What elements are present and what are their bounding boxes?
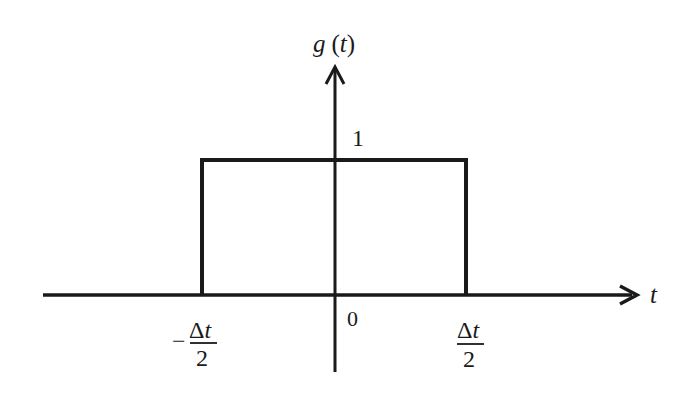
svg-text:2: 2	[196, 345, 208, 371]
height-label: 1	[352, 125, 364, 151]
svg-text:2: 2	[463, 346, 475, 372]
pulse-diagram: g(t) 1 0 t − Δt 2 Δt 2	[0, 0, 689, 393]
origin-label: 0	[347, 306, 358, 331]
svg-text:−: −	[172, 328, 186, 354]
g-axis-label: g(t)	[313, 30, 355, 58]
svg-text:Δt: Δt	[189, 317, 212, 343]
left-edge-label: − Δt 2	[172, 317, 217, 371]
t-axis-label: t	[650, 281, 658, 308]
svg-text:Δt: Δt	[457, 317, 480, 343]
right-edge-label: Δt 2	[457, 317, 484, 372]
